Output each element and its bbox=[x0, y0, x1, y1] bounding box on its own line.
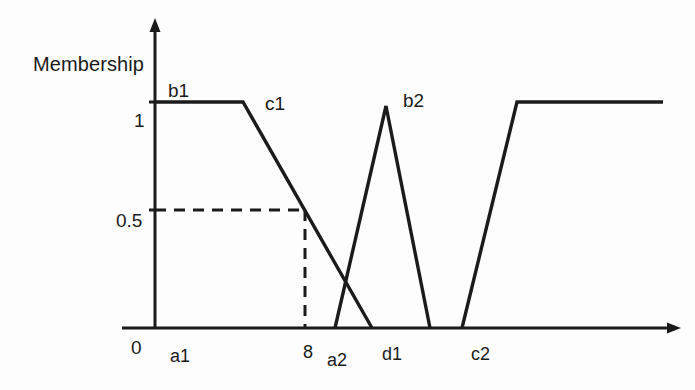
x-tick-label-c2: c2 bbox=[471, 345, 490, 363]
y-axis-arrowhead bbox=[150, 18, 161, 32]
curve-b1-c1 bbox=[155, 102, 372, 328]
origin-label: 0 bbox=[131, 338, 142, 357]
y-tick-label-1: 1 bbox=[134, 111, 145, 130]
x-axis-arrowhead bbox=[667, 323, 681, 334]
curve-label-c1: c1 bbox=[265, 94, 285, 113]
x-tick-label-8: 8 bbox=[303, 343, 313, 361]
y-tick-label-0-5: 0.5 bbox=[116, 211, 142, 230]
curve-label-b2: b2 bbox=[403, 91, 424, 110]
x-tick-label-a1: a1 bbox=[170, 347, 190, 365]
y-axis bbox=[150, 18, 161, 328]
x-tick-label-a2: a2 bbox=[327, 351, 347, 369]
x-tick-label-d1: d1 bbox=[382, 345, 402, 363]
x-axis bbox=[122, 323, 681, 334]
curve-c2 bbox=[462, 102, 663, 328]
curve-label-b1: b1 bbox=[168, 81, 189, 100]
y-axis-title: Membership bbox=[33, 54, 144, 74]
curve-b2-triangle bbox=[335, 106, 430, 328]
fuzzy-membership-figure: Membership 1 0.5 0 b1 c1 b2 a1 8 a2 d1 c… bbox=[0, 0, 695, 390]
